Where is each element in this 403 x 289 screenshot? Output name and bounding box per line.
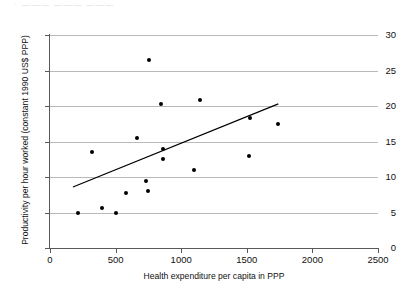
data-point (135, 136, 139, 140)
y-tick-label: 20 (359, 101, 403, 111)
x-tick-mark (312, 248, 313, 253)
gridline-y (50, 35, 378, 36)
gridline-y (50, 213, 378, 214)
x-axis-title: Health expenditure per capita in PPP (50, 271, 378, 281)
y-tick-mark (45, 106, 50, 107)
x-tick-mark (50, 248, 51, 253)
data-point (161, 147, 165, 151)
gridline-y (50, 71, 378, 72)
data-point (147, 58, 151, 62)
y-tick-mark (45, 71, 50, 72)
scatter-chart-figure: · ——— ——— ——— Productivity per hour work… (0, 0, 403, 289)
y-tick-label: 30 (359, 30, 403, 40)
y-tick-mark (45, 142, 50, 143)
y-axis-title: Productivity per hour worked (constant 1… (18, 30, 32, 250)
data-point (114, 211, 118, 215)
x-tick-mark (247, 248, 248, 253)
data-point (276, 122, 280, 126)
gridline-y (50, 106, 378, 107)
gridline-y (50, 142, 378, 143)
x-tick-mark (378, 248, 379, 253)
data-point (198, 98, 202, 102)
x-tick-label: 2000 (292, 255, 332, 265)
data-point (76, 211, 80, 215)
y-tick-label: 0 (359, 243, 403, 253)
data-point (100, 206, 104, 210)
x-axis-line (50, 248, 379, 249)
y-tick-mark (45, 213, 50, 214)
x-tick-label: 0 (30, 255, 70, 265)
plot-area (50, 35, 378, 248)
x-tick-label: 1000 (161, 255, 201, 265)
y-tick-label: 10 (359, 172, 403, 182)
x-tick-label: 1500 (227, 255, 267, 265)
y-tick-label: 25 (359, 66, 403, 76)
y-tick-mark (45, 35, 50, 36)
y-tick-mark (45, 177, 50, 178)
top-caption-fragment: · ——— ——— ——— (14, 0, 115, 9)
x-tick-mark (181, 248, 182, 253)
y-tick-label: 15 (359, 137, 403, 147)
x-tick-label: 2500 (358, 255, 398, 265)
x-tick-label: 500 (96, 255, 136, 265)
data-point (90, 150, 94, 154)
x-tick-mark (116, 248, 117, 253)
y-tick-label: 5 (359, 208, 403, 218)
gridline-y (50, 177, 378, 178)
